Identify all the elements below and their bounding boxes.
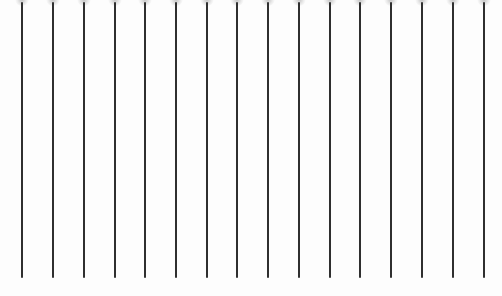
vertical-line: [46, 0, 60, 280]
line-stroke: [452, 2, 454, 278]
line-stroke: [359, 2, 361, 278]
vertical-line: [292, 0, 306, 280]
vertical-line: [323, 0, 337, 280]
line-stroke: [114, 2, 116, 278]
line-stroke: [144, 2, 146, 278]
line-stroke: [21, 2, 23, 278]
line-array-scene: [0, 0, 502, 296]
vertical-line: [353, 0, 367, 280]
line-stroke: [483, 2, 485, 278]
line-stroke: [206, 2, 208, 278]
line-stroke: [267, 2, 269, 278]
vertical-line: [446, 0, 460, 280]
line-stroke: [298, 2, 300, 278]
vertical-line: [108, 0, 122, 280]
vertical-line: [261, 0, 275, 280]
line-stroke: [421, 2, 423, 278]
line-stroke: [329, 2, 331, 278]
vertical-line: [169, 0, 183, 280]
line-stroke: [175, 2, 177, 278]
vertical-line: [477, 0, 491, 280]
line-stroke: [390, 2, 392, 278]
vertical-line: [77, 0, 91, 280]
line-stroke: [83, 2, 85, 278]
vertical-line: [15, 0, 29, 280]
vertical-line: [200, 0, 214, 280]
line-stroke: [236, 2, 238, 278]
line-stroke: [52, 2, 54, 278]
vertical-line: [415, 0, 429, 280]
vertical-line: [138, 0, 152, 280]
vertical-line: [384, 0, 398, 280]
vertical-line: [230, 0, 244, 280]
